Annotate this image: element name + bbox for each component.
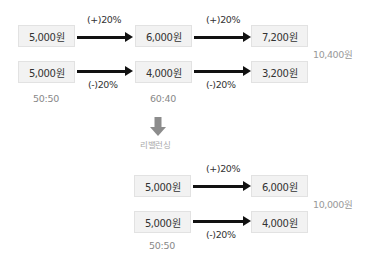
value-box-after-end-up: 6,000원 <box>251 175 308 197</box>
value-box-start-up: 5,000원 <box>18 25 75 47</box>
change-label-up-2: (+)20% <box>206 14 240 25</box>
mid-ratio: 60:40 <box>150 93 176 104</box>
value-box-mid-up: 6,000원 <box>135 25 192 47</box>
value-box-after-start-up: 5,000원 <box>134 175 191 197</box>
right-arrow-icon <box>77 70 126 73</box>
rebalancing-label: 리밸런싱 <box>140 138 171 150</box>
right-arrow-icon <box>194 36 244 39</box>
after-start-ratio: 50:50 <box>149 240 175 251</box>
change-label-up: (+)20% <box>87 14 121 25</box>
right-arrow-icon <box>193 220 244 223</box>
down-arrow-icon <box>150 117 166 137</box>
value-box-after-end-down: 4,000원 <box>251 211 308 233</box>
change-label-after-up: (+)20% <box>206 163 240 174</box>
value-box-end-down: 3,200원 <box>251 61 308 83</box>
right-arrow-icon <box>194 70 244 73</box>
right-arrow-icon <box>77 36 126 39</box>
change-label-down: (-)20% <box>88 79 118 90</box>
change-label-after-down: (-)20% <box>206 229 236 240</box>
start-ratio: 50:50 <box>33 93 59 104</box>
change-label-down-2: (-)20% <box>206 79 236 90</box>
right-arrow-icon <box>193 185 244 188</box>
value-box-after-start-down: 5,000원 <box>134 211 191 233</box>
value-box-start-down: 5,000원 <box>18 61 75 83</box>
total-before: 10,400원 <box>313 47 352 61</box>
value-box-end-up: 7,200원 <box>251 25 308 47</box>
value-box-mid-down: 4,000원 <box>135 61 192 83</box>
total-after: 10,000원 <box>313 197 352 211</box>
